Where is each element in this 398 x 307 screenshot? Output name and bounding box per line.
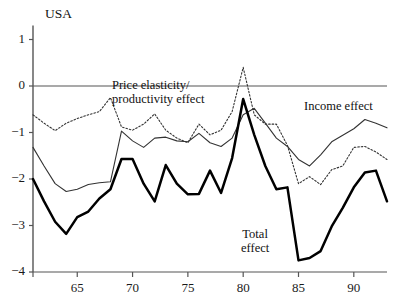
x-tick-label: 75 (173, 280, 203, 296)
series-line-0 (33, 67, 387, 184)
y-tick-label: 0 (3, 77, 25, 93)
annotation-line: productivity effect (112, 92, 204, 106)
series-line-1 (33, 108, 387, 191)
chart-plot-area (0, 0, 398, 307)
annotation-income-effect: Income effect (304, 99, 373, 113)
x-tick-label: 80 (228, 280, 258, 296)
x-tick-label: 85 (284, 280, 314, 296)
x-tick-label: 65 (62, 280, 92, 296)
y-tick-label: −2 (3, 170, 25, 186)
chart-figure: USA 10−1−2−3−4 657075808590 Price elasti… (0, 0, 398, 307)
series-line-2 (33, 99, 387, 260)
annotation-line: effect (241, 241, 269, 255)
annotation-total-effect: Totaleffect (241, 227, 269, 255)
y-tick-label: −3 (3, 217, 25, 233)
x-tick-label: 90 (339, 280, 369, 296)
y-tick-label: −4 (3, 263, 25, 279)
annotation-line: Income effect (304, 99, 373, 113)
annotation-line: Total (241, 227, 269, 241)
x-tick-label: 70 (118, 280, 148, 296)
annotation-line: Price elasticity/ (112, 78, 204, 92)
axis-lines (29, 26, 387, 277)
y-tick-label: 1 (3, 31, 25, 47)
y-tick-label: −1 (3, 124, 25, 140)
annotation-price-elasticity: Price elasticity/productivity effect (112, 78, 204, 106)
